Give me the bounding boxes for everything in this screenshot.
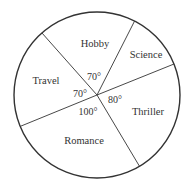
- angle-label-romance: 100°: [79, 106, 98, 117]
- angle-label-thriller: 80°: [108, 94, 122, 105]
- angle-label-hobby: 70°: [87, 71, 101, 82]
- slice-label-thriller: Thriller: [132, 106, 165, 117]
- slice-label-romance: Romance: [64, 135, 104, 146]
- slice-label-hobby: Hobby: [81, 38, 110, 49]
- pie-chart: Hobby Science Thriller Romance Travel 70…: [0, 0, 186, 185]
- slice-label-science: Science: [130, 49, 163, 60]
- slice-label-travel: Travel: [32, 75, 59, 86]
- angle-label-travel: 70°: [73, 88, 87, 99]
